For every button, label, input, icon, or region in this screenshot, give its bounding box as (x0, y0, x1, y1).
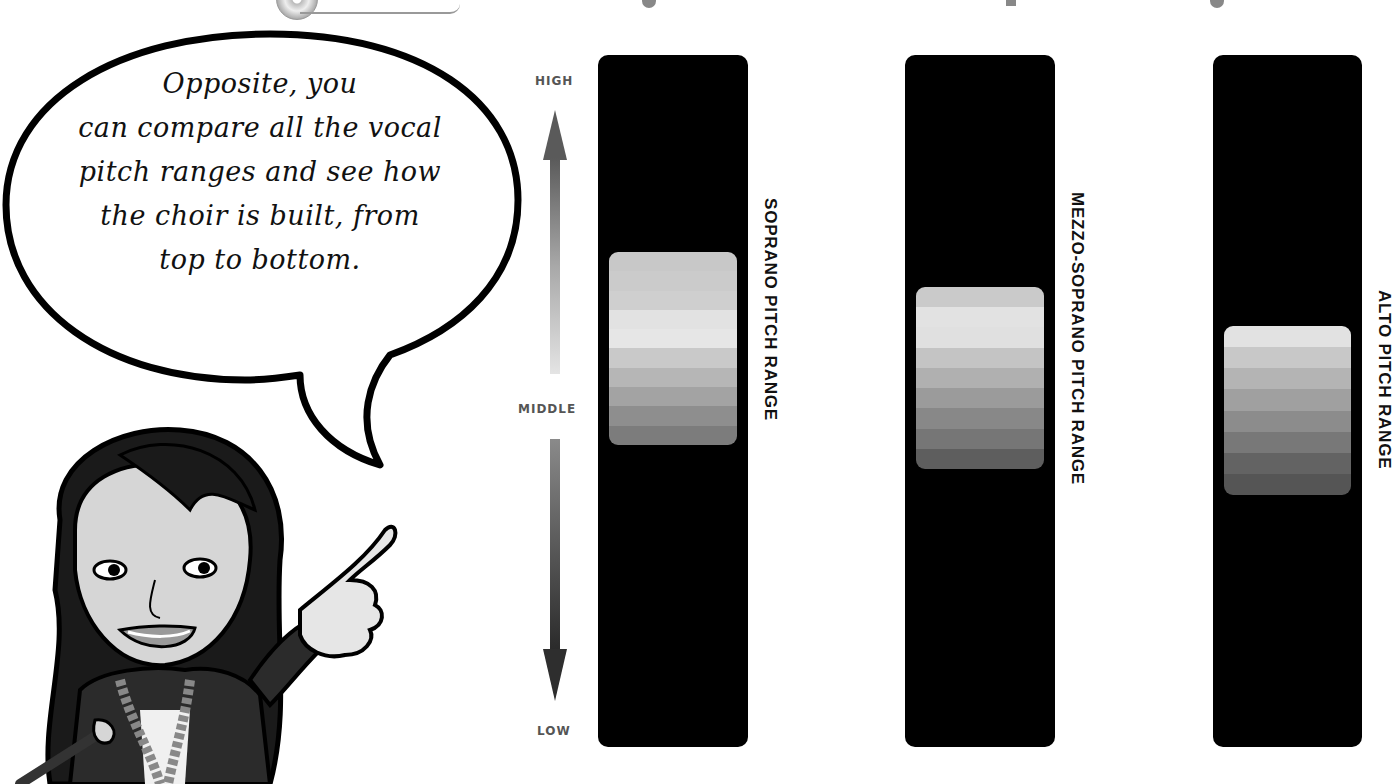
bubble-line: Opposite, you (20, 62, 500, 106)
band-stripe (916, 327, 1044, 347)
band-stripe (609, 348, 737, 367)
bar-label: MEZZO-SOPRANO PITCH RANGE (1067, 192, 1087, 485)
bubble-line: pitch ranges and see how (20, 150, 500, 194)
bar-label: SOPRANO PITCH RANGE (760, 198, 780, 421)
title-descender (1006, 0, 1016, 6)
bubble-line: top to bottom. (20, 238, 500, 282)
band-stripe (916, 429, 1044, 449)
pitch-range-band (1224, 326, 1351, 495)
up-arrow-icon (540, 108, 570, 378)
band-stripe (1224, 326, 1351, 347)
speech-bubble-text: Opposite, you can compare all the vocal … (20, 62, 500, 282)
band-stripe (1224, 453, 1351, 474)
pitch-range-band (916, 287, 1044, 469)
axis-label-high: HIGH (535, 74, 573, 88)
pitch-range-band (609, 252, 737, 445)
pitch-range-bar (1213, 55, 1362, 747)
pitch-range-bar (905, 55, 1055, 747)
band-stripe (609, 310, 737, 329)
band-stripe (916, 287, 1044, 307)
band-stripe (609, 291, 737, 310)
down-arrow-icon (540, 437, 570, 707)
band-stripe (609, 387, 737, 406)
band-stripe (609, 406, 737, 425)
band-stripe (916, 449, 1044, 469)
band-stripe (609, 368, 737, 387)
bubble-line: the choir is built, from (20, 194, 500, 238)
band-stripe (916, 307, 1044, 327)
band-stripe (609, 271, 737, 290)
band-stripe (1224, 389, 1351, 410)
axis-label-middle: MIDDLE (518, 402, 576, 416)
band-stripe (609, 252, 737, 271)
band-stripe (1224, 432, 1351, 453)
bubble-line: can compare all the vocal (20, 106, 500, 150)
pitch-range-bar (598, 55, 748, 747)
band-stripe (1224, 474, 1351, 495)
band-stripe (1224, 411, 1351, 432)
band-stripe (916, 348, 1044, 368)
band-stripe (916, 408, 1044, 428)
band-stripe (916, 368, 1044, 388)
bar-label: ALTO PITCH RANGE (1374, 290, 1394, 469)
title-decoration (300, 0, 460, 14)
band-stripe (1224, 347, 1351, 368)
band-stripe (609, 329, 737, 348)
band-stripe (609, 426, 737, 445)
cartoon-teacher-illustration (0, 420, 420, 784)
axis-label-low: LOW (537, 724, 571, 738)
band-stripe (916, 388, 1044, 408)
title-descender (1210, 0, 1224, 8)
band-stripe (1224, 368, 1351, 389)
